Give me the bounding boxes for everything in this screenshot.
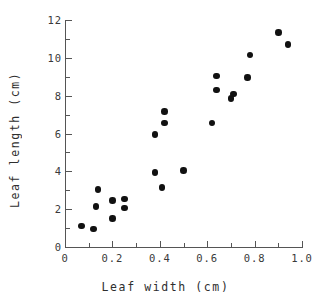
data-point bbox=[93, 203, 100, 210]
data-point bbox=[209, 120, 216, 127]
data-point bbox=[109, 197, 116, 204]
data-point bbox=[95, 186, 102, 193]
plot-data-area bbox=[0, 0, 331, 306]
x-axis-title: Leaf width (cm) bbox=[0, 280, 331, 294]
data-point bbox=[161, 120, 168, 127]
data-point bbox=[90, 226, 97, 233]
data-point bbox=[275, 29, 282, 36]
data-point bbox=[230, 91, 237, 98]
data-point bbox=[244, 74, 251, 81]
data-point bbox=[247, 52, 254, 59]
data-point bbox=[180, 167, 187, 174]
data-point bbox=[152, 131, 159, 138]
data-point bbox=[213, 73, 220, 80]
data-point bbox=[285, 41, 292, 48]
y-axis-title: Leaf length (cm) bbox=[8, 50, 24, 230]
data-point bbox=[152, 169, 159, 176]
data-point bbox=[121, 205, 128, 212]
data-point bbox=[213, 87, 220, 94]
scatter-plot-figure: 00.20.40.60.81.0 024681012 Leaf width (c… bbox=[0, 0, 331, 306]
data-point bbox=[109, 215, 116, 222]
data-point bbox=[121, 196, 128, 203]
data-point bbox=[161, 108, 168, 115]
data-point bbox=[159, 184, 166, 191]
data-point bbox=[78, 223, 85, 230]
